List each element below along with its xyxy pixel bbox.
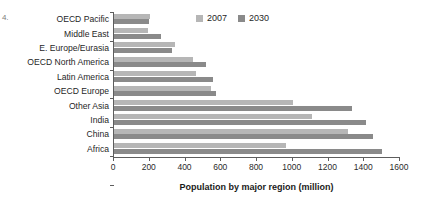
x-axis-tick-label: 0 (93, 162, 133, 172)
x-axis-tick (149, 157, 150, 161)
bar-2007[interactable] (114, 143, 286, 148)
x-axis-tick (328, 157, 329, 161)
x-axis-tick-label: 1200 (308, 162, 348, 172)
bar-2030[interactable] (114, 91, 216, 96)
x-axis-tick (292, 157, 293, 161)
plot-area: OECD PacificMiddle EastE. Europe/Eurasia… (113, 12, 399, 156)
bar-2030[interactable] (114, 77, 213, 82)
bar-2007[interactable] (114, 28, 148, 33)
chart-row: Latin America (113, 70, 399, 84)
category-label: Africa (87, 144, 109, 153)
category-label: OECD Pacific (56, 15, 109, 24)
chart-row: Middle East (113, 26, 399, 40)
x-axis-tick (256, 157, 257, 161)
bar-2030[interactable] (114, 48, 172, 53)
bar-2007[interactable] (114, 42, 175, 47)
bar-2030[interactable] (114, 134, 373, 139)
chart-row: Other Asia (113, 98, 399, 112)
bar-2007[interactable] (114, 100, 293, 105)
bar-2030[interactable] (114, 120, 366, 125)
x-axis-tick-label: 1000 (272, 162, 312, 172)
category-label: India (90, 116, 109, 125)
x-axis-tick (399, 157, 400, 161)
chart-figure: 4. 2007 2030 OECD PacificMiddle EastE. E… (0, 0, 428, 209)
bar-2030[interactable] (114, 149, 382, 154)
category-label: E. Europe/Eurasia (39, 44, 109, 53)
chart-row: OECD North America (113, 55, 399, 69)
category-label: OECD North America (27, 58, 109, 67)
x-axis-tick (220, 157, 221, 161)
chart-row: OECD Pacific (113, 12, 399, 26)
bar-2007[interactable] (114, 86, 211, 91)
bar-2007[interactable] (114, 114, 312, 119)
x-axis-tick (113, 157, 114, 161)
x-axis-tick-label: 600 (200, 162, 240, 172)
x-axis-tick-label: 800 (236, 162, 276, 172)
x-axis-tick-label: 200 (129, 162, 169, 172)
bar-2007[interactable] (114, 129, 348, 134)
x-axis-tick-label: 1600 (379, 162, 419, 172)
y-axis-tick (110, 12, 114, 13)
x-axis-tick-label: 1400 (343, 162, 383, 172)
category-label: China (87, 130, 109, 139)
bar-2030[interactable] (114, 19, 149, 24)
chart-row: India (113, 113, 399, 127)
chart-row: E. Europe/Eurasia (113, 41, 399, 55)
category-label: OECD Europe (54, 87, 109, 96)
x-axis-tick-label: 400 (165, 162, 205, 172)
bar-2007[interactable] (114, 57, 193, 62)
page-marker: 4. (2, 13, 8, 22)
chart-row: OECD Europe (113, 84, 399, 98)
category-label: Other Asia (69, 101, 109, 110)
bar-2030[interactable] (114, 62, 206, 67)
x-axis-title: Population by major region (million) (113, 182, 400, 192)
bar-2030[interactable] (114, 34, 161, 39)
bar-2007[interactable] (114, 14, 150, 19)
category-label: Latin America (57, 72, 109, 81)
x-axis-tick (363, 157, 364, 161)
x-axis-tick (185, 157, 186, 161)
chart-row: Africa (113, 142, 399, 156)
bar-2007[interactable] (114, 71, 196, 76)
bar-2030[interactable] (114, 106, 352, 111)
chart-row: China (113, 127, 399, 141)
category-label: Middle East (64, 29, 109, 38)
